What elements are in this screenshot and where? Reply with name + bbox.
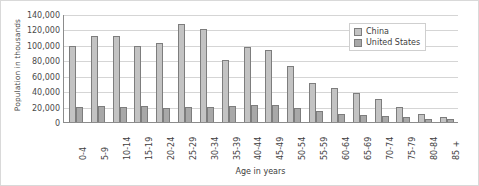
legend-swatch-united-states-icon [354, 39, 362, 47]
x-axis-tick: 70-74 [371, 125, 393, 161]
bar-china[interactable] [265, 50, 272, 123]
bar-china[interactable] [156, 43, 163, 122]
legend-swatch-china-icon [354, 28, 362, 36]
x-axis-tick: 15-19 [130, 125, 152, 161]
bar-china[interactable] [200, 29, 207, 122]
y-axis-tick-label: 60,000 [32, 72, 60, 81]
bar-china[interactable] [113, 36, 120, 122]
bar-united-states[interactable] [207, 107, 214, 122]
chart-legend: China United States [349, 23, 426, 51]
bar-united-states[interactable] [316, 111, 323, 122]
bar-united-states[interactable] [382, 116, 389, 122]
bar-group [218, 15, 240, 122]
x-axis-tick-label: 85 + [452, 141, 461, 160]
bar-united-states[interactable] [447, 119, 454, 122]
bar-china[interactable] [309, 83, 316, 122]
bar-united-states[interactable] [185, 107, 192, 122]
x-axis-tick: 20-24 [152, 125, 174, 161]
bar-united-states[interactable] [360, 115, 367, 122]
y-axis-tick-label: 0 [55, 119, 60, 128]
legend-label-china: China [366, 27, 389, 36]
x-axis-tick: 40-44 [240, 125, 262, 161]
bar-united-states[interactable] [425, 119, 432, 122]
x-axis-title: Age in years [63, 167, 458, 176]
x-axis-tick: 65-69 [349, 125, 371, 161]
bar-group [240, 15, 262, 122]
gridline: 0 [64, 123, 458, 124]
bar-united-states[interactable] [251, 105, 258, 122]
bar-united-states[interactable] [272, 105, 279, 122]
y-axis-tick-label: 120,000 [27, 26, 60, 35]
bar-china[interactable] [69, 46, 76, 122]
y-axis-tick-label: 20,000 [32, 103, 60, 112]
x-axis-tick: 85 + [437, 125, 459, 161]
bar-united-states[interactable] [76, 107, 83, 122]
bar-group [305, 15, 327, 122]
bar-united-states[interactable] [403, 117, 410, 122]
bar-china[interactable] [353, 93, 360, 122]
bar-china[interactable] [440, 117, 447, 122]
y-axis-tick-label: 80,000 [32, 57, 60, 66]
bar-china[interactable] [91, 36, 98, 122]
bar-united-states[interactable] [163, 108, 170, 122]
x-axis-tick: 50-54 [283, 125, 305, 161]
bar-united-states[interactable] [141, 106, 148, 122]
bar-china[interactable] [178, 24, 185, 122]
bar-group [65, 15, 87, 122]
bar-china[interactable] [396, 107, 403, 122]
legend-label-united-states: United States [366, 38, 420, 47]
bar-united-states[interactable] [294, 108, 301, 122]
y-axis-tick-label: 40,000 [32, 88, 60, 97]
y-axis-title: Population in thousands [13, 5, 27, 125]
x-axis-tick: 80-84 [415, 125, 437, 161]
bar-china[interactable] [222, 60, 229, 122]
bar-group [152, 15, 174, 122]
bar-china[interactable] [287, 66, 294, 122]
legend-item-china: China [354, 27, 420, 36]
bar-group [436, 15, 458, 122]
x-axis-tick-labels: 0-45-910-1415-1920-2425-2930-3435-3940-4… [64, 125, 459, 161]
bar-group [327, 15, 349, 122]
bar-group [196, 15, 218, 122]
x-axis-tick: 5-9 [86, 125, 108, 161]
x-axis-tick: 45-49 [261, 125, 283, 161]
bar-united-states[interactable] [98, 106, 105, 122]
bar-group [109, 15, 131, 122]
y-axis-tick-label: 100,000 [27, 41, 60, 50]
x-axis-tick: 35-39 [218, 125, 240, 161]
x-axis-tick: 10-14 [108, 125, 130, 161]
bar-china[interactable] [134, 46, 141, 122]
bar-group [174, 15, 196, 122]
bar-united-states[interactable] [120, 107, 127, 122]
x-axis-tick: 55-59 [305, 125, 327, 161]
bar-china[interactable] [331, 88, 338, 122]
bar-china[interactable] [418, 114, 425, 122]
x-axis-tick: 0-4 [64, 125, 86, 161]
bar-group [283, 15, 305, 122]
bar-group [87, 15, 109, 122]
bar-china[interactable] [244, 47, 251, 122]
bar-united-states[interactable] [338, 114, 345, 122]
legend-item-united-states: United States [354, 38, 420, 47]
x-axis-tick: 60-64 [327, 125, 349, 161]
bar-united-states[interactable] [229, 106, 236, 122]
x-axis-tick: 25-29 [174, 125, 196, 161]
bar-group [130, 15, 152, 122]
bar-china[interactable] [375, 99, 382, 122]
bar-group [261, 15, 283, 122]
y-axis-tick-label: 140,000 [27, 11, 60, 20]
x-axis-tick: 30-34 [196, 125, 218, 161]
x-axis-tick: 75-79 [393, 125, 415, 161]
population-bar-chart: Population in thousands 020,00040,00060,… [0, 0, 479, 186]
